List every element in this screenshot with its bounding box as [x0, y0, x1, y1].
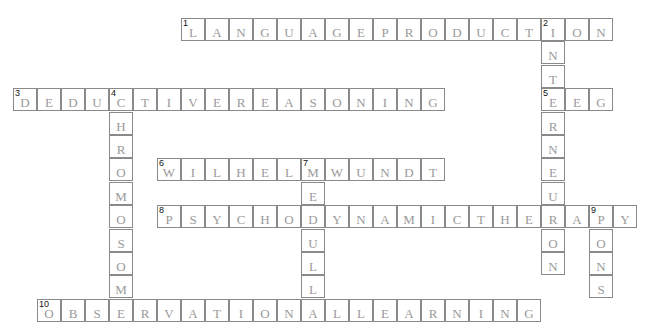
crossword-cell[interactable]: L	[325, 299, 349, 322]
crossword-cell[interactable]: V	[157, 299, 181, 322]
crossword-cell[interactable]: U	[469, 18, 493, 41]
crossword-cell[interactable]: T	[421, 158, 445, 181]
crossword-cell[interactable]: O	[589, 229, 613, 252]
crossword-cell[interactable]: A	[397, 299, 421, 322]
crossword-cell[interactable]: G	[253, 18, 277, 41]
crossword-cell[interactable]: R	[541, 205, 565, 228]
crossword-cell[interactable]: M7	[301, 158, 325, 181]
crossword-cell[interactable]: D	[445, 18, 469, 41]
crossword-cell[interactable]: O	[109, 205, 133, 228]
crossword-cell[interactable]: U	[85, 88, 109, 111]
crossword-cell[interactable]: H	[493, 205, 517, 228]
crossword-cell[interactable]: U	[349, 158, 373, 181]
crossword-cell[interactable]: L	[349, 299, 373, 322]
crossword-cell[interactable]: Y	[205, 205, 229, 228]
crossword-cell[interactable]: E	[517, 205, 541, 228]
crossword-cell[interactable]: U	[277, 18, 301, 41]
crossword-cell[interactable]: S	[589, 275, 613, 298]
crossword-cell[interactable]: R	[109, 135, 133, 158]
crossword-cell[interactable]: D	[397, 158, 421, 181]
crossword-cell[interactable]: N	[277, 299, 301, 322]
crossword-cell[interactable]: N	[589, 18, 613, 41]
crossword-cell[interactable]: I	[469, 299, 493, 322]
crossword-cell[interactable]: P9	[589, 205, 613, 228]
crossword-cell[interactable]: A	[181, 299, 205, 322]
crossword-cell[interactable]: E	[253, 158, 277, 181]
crossword-cell[interactable]: C	[445, 205, 469, 228]
crossword-cell[interactable]: G	[325, 18, 349, 41]
crossword-cell[interactable]: A	[301, 299, 325, 322]
crossword-cell[interactable]: O	[325, 88, 349, 111]
crossword-cell[interactable]: S	[109, 229, 133, 252]
crossword-cell[interactable]: N	[373, 158, 397, 181]
crossword-cell[interactable]: N	[589, 252, 613, 275]
crossword-cell[interactable]: A	[565, 205, 589, 228]
crossword-cell[interactable]: W	[325, 158, 349, 181]
crossword-cell[interactable]: O	[565, 18, 589, 41]
crossword-cell[interactable]: I	[157, 88, 181, 111]
crossword-cell[interactable]: L1	[181, 18, 205, 41]
crossword-cell[interactable]: E	[37, 88, 61, 111]
crossword-cell[interactable]: Y	[325, 205, 349, 228]
crossword-cell[interactable]: S	[301, 88, 325, 111]
crossword-cell[interactable]: E	[205, 88, 229, 111]
crossword-cell[interactable]: E	[301, 182, 325, 205]
crossword-cell[interactable]: S	[181, 205, 205, 228]
crossword-cell[interactable]: I	[229, 299, 253, 322]
crossword-cell[interactable]: R	[133, 299, 157, 322]
crossword-cell[interactable]: T	[517, 18, 541, 41]
crossword-cell[interactable]: A	[301, 18, 325, 41]
crossword-cell[interactable]: I2	[541, 18, 565, 41]
crossword-cell[interactable]: N	[541, 252, 565, 275]
crossword-cell[interactable]: H	[229, 158, 253, 181]
crossword-cell[interactable]: P	[373, 18, 397, 41]
crossword-cell[interactable]: R	[421, 299, 445, 322]
crossword-cell[interactable]: H	[109, 112, 133, 135]
crossword-cell[interactable]: V	[181, 88, 205, 111]
crossword-cell[interactable]: Y	[613, 205, 637, 228]
crossword-cell[interactable]: D	[301, 205, 325, 228]
crossword-cell[interactable]: N	[493, 299, 517, 322]
crossword-cell[interactable]: C4	[109, 88, 133, 111]
crossword-cell[interactable]: L	[205, 158, 229, 181]
crossword-cell[interactable]: N	[229, 18, 253, 41]
crossword-cell[interactable]: E5	[541, 88, 565, 111]
crossword-cell[interactable]: E	[349, 18, 373, 41]
crossword-cell[interactable]: N	[349, 205, 373, 228]
crossword-cell[interactable]: M	[109, 275, 133, 298]
crossword-cell[interactable]: B	[61, 299, 85, 322]
crossword-cell[interactable]: G	[517, 299, 541, 322]
crossword-cell[interactable]: O	[109, 158, 133, 181]
crossword-cell[interactable]: L	[301, 252, 325, 275]
crossword-cell[interactable]: A	[373, 205, 397, 228]
crossword-cell[interactable]: E	[253, 88, 277, 111]
crossword-cell[interactable]: O10	[37, 299, 61, 322]
crossword-cell[interactable]: I	[181, 158, 205, 181]
crossword-cell[interactable]: G	[589, 88, 613, 111]
crossword-cell[interactable]: T	[469, 205, 493, 228]
crossword-cell[interactable]: T	[541, 65, 565, 88]
crossword-cell[interactable]: L	[277, 158, 301, 181]
crossword-cell[interactable]: N	[445, 299, 469, 322]
crossword-cell[interactable]: E	[109, 299, 133, 322]
crossword-cell[interactable]: L	[301, 275, 325, 298]
crossword-cell[interactable]: O	[109, 252, 133, 275]
crossword-cell[interactable]: P8	[157, 205, 181, 228]
crossword-cell[interactable]: M	[109, 182, 133, 205]
crossword-cell[interactable]: O	[541, 229, 565, 252]
crossword-cell[interactable]: R	[397, 18, 421, 41]
crossword-cell[interactable]: T	[133, 88, 157, 111]
crossword-cell[interactable]: N	[349, 88, 373, 111]
crossword-cell[interactable]: D	[61, 88, 85, 111]
crossword-cell[interactable]: U	[301, 229, 325, 252]
crossword-cell[interactable]: O	[277, 205, 301, 228]
crossword-cell[interactable]: G	[421, 88, 445, 111]
crossword-cell[interactable]: I	[373, 88, 397, 111]
crossword-cell[interactable]: C	[229, 205, 253, 228]
crossword-cell[interactable]: N	[541, 135, 565, 158]
crossword-cell[interactable]: I	[421, 205, 445, 228]
crossword-cell[interactable]: O	[253, 299, 277, 322]
crossword-cell[interactable]: H	[253, 205, 277, 228]
crossword-cell[interactable]: A	[277, 88, 301, 111]
crossword-cell[interactable]: E	[565, 88, 589, 111]
